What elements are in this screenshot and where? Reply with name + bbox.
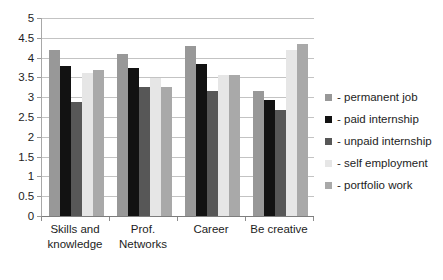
plot-area — [41, 18, 314, 217]
legend-swatch-icon — [325, 116, 332, 123]
legend-item-label: - unpaid internship — [337, 135, 432, 148]
legend-item-label: - self employment — [337, 157, 428, 170]
bar — [218, 75, 229, 216]
bar — [117, 54, 128, 216]
bar — [297, 44, 308, 216]
x-axis-tick-mark — [41, 217, 42, 221]
legend-swatch-icon — [325, 182, 332, 189]
bar — [253, 91, 264, 216]
y-axis-tick-label: 5 — [0, 12, 34, 24]
bar — [71, 102, 82, 216]
y-axis-tick-label: 1.5 — [0, 151, 34, 163]
y-axis-tick-label: 3.5 — [0, 71, 34, 83]
y-axis: 54.543.532.521.510.50 — [0, 11, 34, 223]
y-axis-tick-label: 4.5 — [0, 32, 34, 44]
legend-item-label: - paid internship — [337, 113, 419, 126]
x-axis-category-label: Prof. Networks — [109, 222, 177, 270]
bar — [150, 78, 161, 216]
bar — [264, 100, 275, 216]
y-axis-tick-label: 1 — [0, 170, 34, 182]
bar-group — [42, 18, 110, 216]
legend-item-label: - portfolio work — [337, 179, 412, 192]
y-axis-tick-label: 3 — [0, 91, 34, 103]
x-axis: Skills and knowledgeProf. NetworksCareer… — [41, 222, 313, 270]
x-axis-tick-mark — [109, 217, 110, 221]
bar — [82, 73, 93, 216]
y-axis-tick-label: 0.5 — [0, 190, 34, 202]
bar — [93, 70, 104, 216]
bar-group — [110, 18, 178, 216]
bar — [275, 110, 286, 216]
bar-group — [178, 18, 246, 216]
y-axis-tick-label: 2.5 — [0, 111, 34, 123]
bar — [128, 68, 139, 217]
x-axis-category-label: Skills and knowledge — [41, 222, 109, 270]
legend-swatch-icon — [325, 94, 332, 101]
x-axis-category-label: Career — [177, 222, 245, 270]
bar-chart: 54.543.532.521.510.50 Skills and knowled… — [0, 0, 443, 280]
legend-item: - permanent job — [325, 86, 443, 108]
bar — [139, 87, 150, 216]
x-axis-category-label: Be creative — [245, 222, 313, 270]
chart-legend: - permanent job- paid internship- unpaid… — [325, 86, 443, 196]
legend-item: - self employment — [325, 152, 443, 174]
bar — [161, 87, 172, 216]
bar — [229, 75, 240, 216]
bar — [185, 46, 196, 216]
bar-groups — [42, 18, 314, 216]
legend-item: - portfolio work — [325, 174, 443, 196]
bar — [286, 50, 297, 216]
bar — [49, 50, 60, 216]
x-axis-tick-mark — [245, 217, 246, 221]
bar — [207, 91, 218, 216]
legend-item-label: - permanent job — [337, 91, 418, 104]
bar-group — [246, 18, 314, 216]
bar — [196, 64, 207, 216]
x-axis-tick-mark — [313, 217, 314, 221]
y-axis-tick-label: 0 — [0, 210, 34, 222]
legend-swatch-icon — [325, 160, 332, 167]
legend-item: - unpaid internship — [325, 130, 443, 152]
legend-item: - paid internship — [325, 108, 443, 130]
bar — [60, 66, 71, 216]
x-axis-tick-mark — [177, 217, 178, 221]
y-axis-tick-label: 4 — [0, 52, 34, 64]
legend-swatch-icon — [325, 138, 332, 145]
y-axis-tick-label: 2 — [0, 131, 34, 143]
